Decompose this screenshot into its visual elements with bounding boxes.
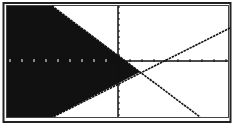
calculator-graph-screen	[0, 0, 233, 125]
graph-canvas	[0, 0, 233, 125]
